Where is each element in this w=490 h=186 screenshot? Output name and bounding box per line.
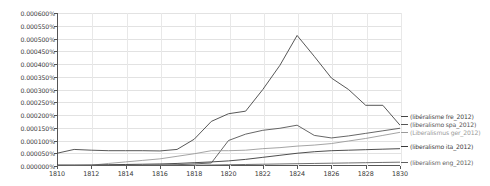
x-tick-mark (297, 166, 298, 169)
x-tick-label: 1824 (280, 170, 314, 178)
legend-label: (liberalism eng_2012) (410, 159, 473, 166)
x-tick-label: 1820 (212, 170, 246, 178)
x-tick-mark (229, 166, 230, 169)
x-tick-mark (366, 166, 367, 169)
y-tick-mark (54, 39, 57, 40)
x-tick-mark (400, 166, 401, 169)
y-tick-mark (54, 64, 57, 65)
x-tick-mark (91, 166, 92, 169)
y-tick-label: 0.000350% (0, 73, 55, 80)
x-tick-label: 1826 (314, 170, 348, 178)
x-tick-label: 1814 (109, 170, 143, 178)
y-tick-mark (54, 90, 57, 91)
legend-label: (liberalismo ita_2012) (410, 143, 473, 150)
series-layer (57, 13, 400, 166)
y-tick-mark (54, 77, 57, 78)
legend-swatch-icon (401, 162, 408, 164)
y-tick-label: 0.000450% (0, 48, 55, 55)
legend-item[interactable]: (Liberalismus ger_2012) (401, 129, 480, 136)
x-tick-label: 1830 (383, 170, 417, 178)
y-tick-label: 0.000600% (0, 10, 55, 17)
y-tick-label: 0.000500% (0, 35, 55, 42)
x-tick-label: 1818 (177, 170, 211, 178)
x-tick-label: 1822 (246, 170, 280, 178)
y-tick-label: 0.000100% (0, 137, 55, 144)
x-tick-label: 1828 (349, 170, 383, 178)
y-tick-mark (54, 13, 57, 14)
x-tick-label: 1810 (40, 170, 74, 178)
legend-label: (Liberalismus ger_2012) (410, 129, 480, 136)
y-tick-label: 0.000150% (0, 124, 55, 131)
x-tick-mark (126, 166, 127, 169)
x-tick-label: 1816 (143, 170, 177, 178)
legend-item[interactable]: (libéralisme fre_2012) (401, 113, 474, 120)
y-tick-mark (54, 51, 57, 52)
chart-legend: (libéralisme fre_2012)(liberalismo spa_2… (401, 0, 490, 186)
legend-item[interactable]: (liberalismo spa_2012) (401, 121, 476, 128)
y-tick-mark (54, 26, 57, 27)
x-tick-mark (263, 166, 264, 169)
y-tick-mark (54, 141, 57, 142)
x-tick-mark (57, 166, 58, 169)
series-line (57, 125, 400, 165)
legend-swatch-icon (401, 116, 408, 118)
y-tick-mark (54, 115, 57, 116)
legend-label: (liberalismo spa_2012) (410, 121, 476, 128)
y-tick-label: 0.000550% (0, 22, 55, 29)
legend-swatch-icon (401, 146, 408, 148)
x-tick-mark (160, 166, 161, 169)
y-tick-label: 0.000200% (0, 112, 55, 119)
y-tick-label: 0.000250% (0, 99, 55, 106)
y-tick-label: 0.000300% (0, 86, 55, 93)
y-tick-label: 0.000000% (0, 163, 55, 170)
y-tick-label: 0.000400% (0, 61, 55, 68)
ngram-chart: (libéralisme fre_2012)(liberalismo spa_2… (0, 0, 490, 186)
legend-item[interactable]: (liberalism eng_2012) (401, 159, 473, 166)
x-tick-mark (331, 166, 332, 169)
y-tick-mark (54, 128, 57, 129)
x-tick-label: 1812 (74, 170, 108, 178)
legend-swatch-icon (401, 124, 408, 126)
x-tick-mark (194, 166, 195, 169)
y-tick-mark (54, 153, 57, 154)
legend-item[interactable]: (liberalismo ita_2012) (401, 143, 473, 150)
y-tick-label: 0.000050% (0, 150, 55, 157)
legend-swatch-icon (401, 132, 408, 134)
legend-label: (libéralisme fre_2012) (410, 113, 474, 120)
y-tick-mark (54, 102, 57, 103)
